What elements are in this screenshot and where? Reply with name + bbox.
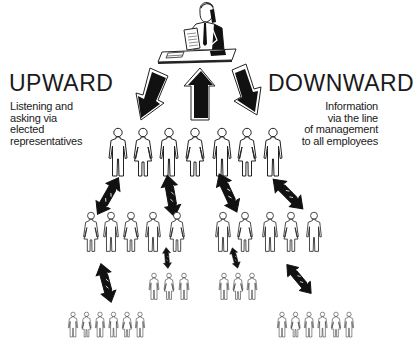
upward-heading: UPWARD	[9, 71, 113, 95]
employees-row-1	[109, 128, 282, 176]
downward-caption-line: of management	[280, 124, 378, 136]
two-way-arrows-level-2	[93, 247, 316, 304]
employees-row-3	[149, 273, 257, 299]
upward-caption: Listening and asking via elected represe…	[10, 101, 100, 147]
arrow-up-icon	[184, 68, 215, 120]
employees-row-4	[68, 312, 353, 337]
downward-caption-line: Information	[280, 101, 378, 113]
arrow-down-right-icon	[232, 64, 261, 115]
downward-heading: DOWNWARD	[268, 71, 414, 95]
downward-caption-line: to all employees	[280, 136, 378, 148]
manager-icon	[158, 2, 236, 64]
downward-caption: Information via the line of management t…	[280, 101, 378, 147]
upward-caption-line: Listening and	[10, 101, 100, 113]
arrow-down-left-icon	[136, 68, 168, 120]
employees-row-2	[84, 212, 322, 251]
two-way-arrows-level-1	[91, 171, 309, 219]
upward-caption-line: representatives	[10, 136, 100, 148]
upward-caption-line: elected	[10, 124, 100, 136]
